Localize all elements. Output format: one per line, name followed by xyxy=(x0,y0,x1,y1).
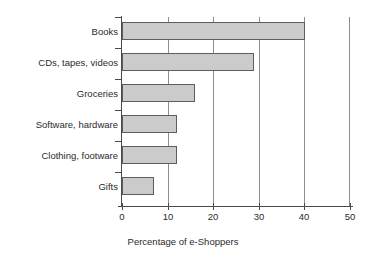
bar-software-hardware xyxy=(122,115,177,133)
x-axis-title-text: Percentage of e-Shoppers xyxy=(128,236,239,247)
bar-books xyxy=(122,22,305,40)
bar-cds-tapes-videos xyxy=(122,53,254,71)
x-tick-label-40: 40 xyxy=(289,211,319,222)
x-tick-10 xyxy=(168,203,169,210)
category-label-groceries: Groceries xyxy=(0,88,118,99)
gridline-20 xyxy=(213,17,214,206)
gridline-40 xyxy=(304,17,305,206)
x-tick-50 xyxy=(350,203,351,210)
bar-chart: Books CDs, tapes, videos Groceries Softw… xyxy=(0,0,371,263)
x-tick-0 xyxy=(122,203,123,210)
x-axis-line xyxy=(118,206,353,207)
category-label-gifts: Gifts xyxy=(0,181,118,192)
bar-groceries xyxy=(122,84,195,102)
category-label-software-hardware: Software, hardware xyxy=(0,119,118,130)
x-axis-title: Percentage of e-Shoppers xyxy=(0,236,371,247)
x-tick-40 xyxy=(304,203,305,210)
x-tick-20 xyxy=(213,203,214,210)
gridline-10 xyxy=(168,17,169,206)
x-tick-label-50: 50 xyxy=(335,211,365,222)
plot-area xyxy=(122,17,350,206)
x-tick-30 xyxy=(259,203,260,210)
category-label-cds-tapes-videos: CDs, tapes, videos xyxy=(0,57,118,68)
x-tick-label-20: 20 xyxy=(198,211,228,222)
bar-gifts xyxy=(122,177,154,195)
category-label-books: Books xyxy=(0,26,118,37)
category-axis-labels: Books CDs, tapes, videos Groceries Softw… xyxy=(0,0,118,263)
gridline-30 xyxy=(259,17,260,206)
gridline-50 xyxy=(349,17,350,206)
bar-clothing-footware xyxy=(122,146,177,164)
y-axis-line xyxy=(121,16,122,207)
x-tick-label-10: 10 xyxy=(153,211,183,222)
x-tick-label-30: 30 xyxy=(244,211,274,222)
category-label-clothing-footware: Clothing, footware xyxy=(0,150,118,161)
x-tick-label-0: 0 xyxy=(107,211,137,222)
